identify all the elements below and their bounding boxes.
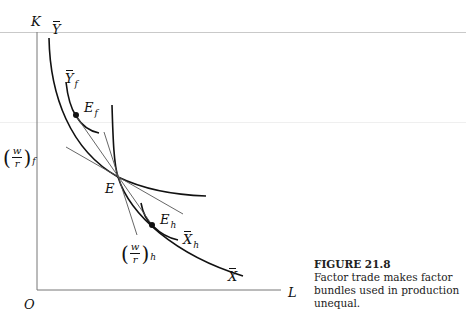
- label-x-bar: X: [228, 270, 237, 283]
- label-y-bar-f: Yf: [65, 72, 78, 85]
- label-e: E: [105, 182, 115, 195]
- axis-label-k: K: [31, 15, 41, 28]
- isoquant-y-bar: [49, 38, 206, 196]
- figure-number: FIGURE 21.8: [314, 258, 464, 271]
- label-e-f: Ef: [84, 101, 98, 114]
- point-e-f: [73, 112, 79, 118]
- label-x-bar-h: Xh: [183, 233, 199, 246]
- figure-caption-text: Factor trade makes factor bundles used i…: [314, 271, 464, 310]
- origin-label-o: O: [24, 298, 35, 311]
- figure-caption: FIGURE 21.8 Factor trade makes factor bu…: [314, 258, 464, 310]
- label-price-ratio-home: ( wr ) h: [121, 242, 156, 265]
- price-line-foreign: [66, 147, 183, 214]
- label-y-bar: Y: [52, 23, 61, 36]
- label-price-ratio-foreign: ( wr ) f: [3, 146, 36, 169]
- axis-label-l: L: [288, 286, 297, 299]
- point-e-h: [149, 222, 155, 228]
- label-e-h: Eh: [160, 213, 176, 226]
